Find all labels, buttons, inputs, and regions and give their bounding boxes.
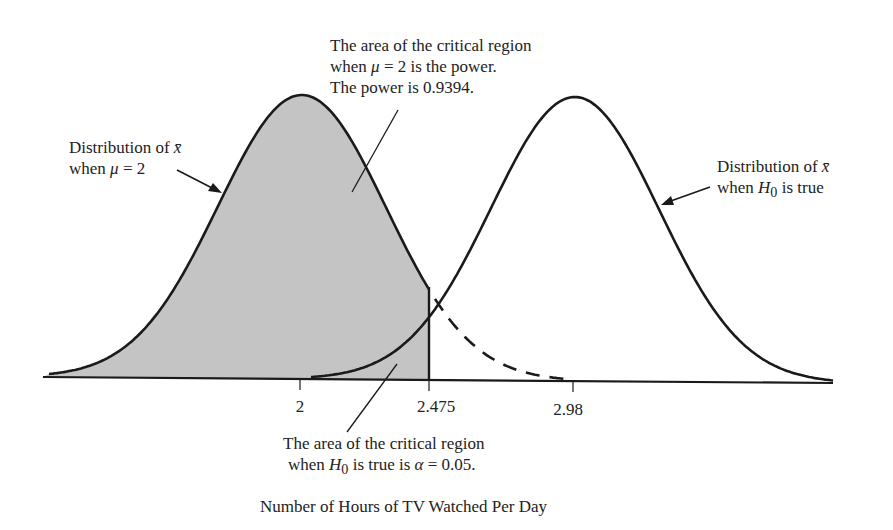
null-distribution-label: Distribution of x̄ when H0 is true xyxy=(717,156,829,203)
x-axis-label: Number of Hours of TV Watched Per Day xyxy=(260,496,547,517)
null-arrow-head-icon xyxy=(661,196,674,205)
power-region-annotation: The area of the critical region when μ =… xyxy=(330,35,532,98)
alt-arrow-head-icon xyxy=(208,183,222,193)
null-arrow-line xyxy=(668,187,710,202)
power-annotation-line3: The power is 0.9394. xyxy=(330,77,532,98)
alpha-region-annotation: The area of the critical region when H0 … xyxy=(283,433,485,480)
h0-symbol: H xyxy=(329,455,341,474)
alpha-annotation-line1: The area of the critical region xyxy=(283,433,485,454)
power-annotation-line1: The area of the critical region xyxy=(330,35,532,56)
alt-distribution-label: Distribution of x̄ when μ = 2 xyxy=(69,137,181,179)
tick-label-2475: 2.475 xyxy=(417,397,455,417)
h0-symbol: H xyxy=(758,178,770,197)
alt-distribution-dashed-tail xyxy=(435,299,565,379)
alt-arrow-line xyxy=(177,170,216,190)
xbar-symbol: x̄ xyxy=(822,157,830,176)
mu-symbol: μ xyxy=(110,159,119,178)
x-axis xyxy=(43,377,833,383)
tick-label-2: 2 xyxy=(296,397,305,417)
mu-symbol: μ xyxy=(371,57,380,76)
xbar-symbol: x̄ xyxy=(174,138,182,157)
tick-label-298: 2.98 xyxy=(553,400,583,420)
